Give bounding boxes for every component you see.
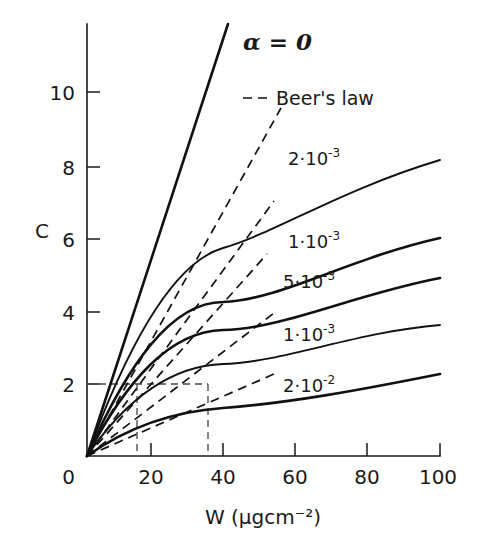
curve-label-5e-3-mantissa: 5·10 xyxy=(283,271,323,292)
x-axis-label: W (μgcm⁻²) xyxy=(205,505,321,529)
curves-group xyxy=(87,24,440,456)
curve-label-2e-2-mantissa: 2·10 xyxy=(283,375,323,396)
curve-label-1e-3-lower-exponent: -3 xyxy=(323,322,335,336)
curve-label-1e-3-upper-mantissa: 1·10 xyxy=(288,231,328,252)
legend-alpha-label: α = 0 xyxy=(243,28,312,55)
curve-label-5e-3-exponent: -3 xyxy=(323,269,335,283)
figure-container: 10 8 6 4 2 0 20 40 60 80 100 C xyxy=(0,0,485,553)
curve-label-2e-2-exponent: -2 xyxy=(323,373,335,387)
curve-alpha-2e-3 xyxy=(87,160,440,456)
legend-group: α = 0 Beer's law xyxy=(243,28,374,109)
y-tick-label-6: 6 xyxy=(62,228,75,252)
curve-alpha-1e-3-lower xyxy=(87,325,440,456)
curve-alpha-1e-3-upper xyxy=(87,238,440,456)
curve-label-2e-3-mantissa: 2·10 xyxy=(288,148,328,169)
curve-label-2e-2: 2·10-2 xyxy=(283,373,335,396)
y-axis-label: C xyxy=(35,219,49,243)
y-tick-label-8: 8 xyxy=(62,156,75,180)
x-tick-label-100: 100 xyxy=(419,465,457,489)
x-tick-label-80: 80 xyxy=(354,465,379,489)
x-tick-label-20: 20 xyxy=(138,465,163,489)
curve-alpha-5e-3 xyxy=(87,278,440,456)
chart-canvas: 10 8 6 4 2 0 20 40 60 80 100 C xyxy=(0,0,485,553)
y-tick-label-4: 4 xyxy=(62,301,75,325)
axes-group xyxy=(87,24,440,456)
y-tick-marks xyxy=(87,92,100,384)
curve-label-1e-3-lower-mantissa: 1·10 xyxy=(283,324,323,345)
curve-label-5e-3: 5·10-3 xyxy=(283,269,335,292)
x-tick-label-40: 40 xyxy=(210,465,235,489)
curve-label-1e-3-lower: 1·10-3 xyxy=(283,322,335,345)
y-tick-label-0: 0 xyxy=(62,465,75,489)
curve-label-1e-3-upper: 1·10-3 xyxy=(288,229,340,252)
curve-label-2e-3-exponent: -3 xyxy=(328,146,340,160)
y-tick-label-10: 10 xyxy=(50,81,75,105)
curve-label-1e-3-upper-exponent: -3 xyxy=(328,229,340,243)
legend-beer-label: Beer's law xyxy=(276,87,374,109)
x-tick-marks xyxy=(151,443,440,456)
y-tick-label-2: 2 xyxy=(62,373,75,397)
x-tick-label-60: 60 xyxy=(282,465,307,489)
curve-label-2e-3: 2·10-3 xyxy=(288,146,340,169)
beer-tangent-5e-3 xyxy=(87,254,267,456)
curve-labels-group: 2·10-3 1·10-3 5·10-3 1·10-3 2·10-2 xyxy=(283,146,340,396)
x-axis-label-text: W (μgcm⁻²) xyxy=(205,505,321,529)
